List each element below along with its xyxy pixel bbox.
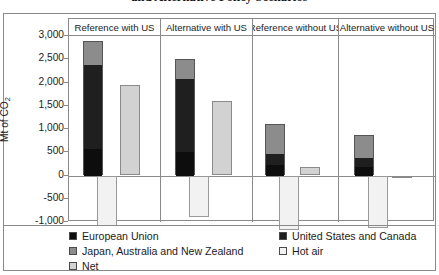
stack-segment <box>355 158 373 167</box>
chart-legend: European UnionJapan, Australia and New Z… <box>3 225 436 271</box>
legend-label: European Union <box>82 230 159 242</box>
stack-segment <box>176 79 194 152</box>
legend-column-left: European UnionJapan, Australia and New Z… <box>69 229 243 274</box>
stacked-bar <box>175 59 195 176</box>
y-axis-tick-mark <box>64 221 68 222</box>
stack-segment <box>84 42 102 65</box>
chart-page: and Alternative Policy Scenarios Mt of C… <box>0 0 439 275</box>
legend-label: Japan, Australia and New Zealand <box>82 245 243 257</box>
panel-title: Reference with US <box>69 19 160 36</box>
chart-panel: Alternative with US <box>161 19 253 222</box>
panel-plot-body <box>69 36 160 222</box>
chart-panel: Reference with US <box>69 19 161 222</box>
legend-item: Hot air <box>279 244 416 258</box>
stack-segment <box>84 65 102 149</box>
legend-item: European Union <box>69 229 243 243</box>
net-bar <box>120 85 140 176</box>
panel-plot-body <box>339 36 435 222</box>
panel-plot-body <box>161 36 252 222</box>
legend-swatch-japan-australia-new-zealand <box>69 247 77 255</box>
stack-segment <box>355 136 373 158</box>
y-axis: Mt of CO2 3,0002,5002,0001,5001,0005000-… <box>3 18 68 221</box>
stack-segment <box>176 152 194 177</box>
stacked-bar <box>83 41 103 175</box>
legend-item: Japan, Australia and New Zealand <box>69 244 243 258</box>
legend-swatch-european-union <box>69 232 77 240</box>
hot-air-bar <box>279 176 299 231</box>
legend-swatch-united-states-and-canada <box>279 232 287 240</box>
legend-label: Net <box>82 260 99 272</box>
legend-swatch-net <box>69 262 77 270</box>
hot-air-bar <box>97 176 117 226</box>
plot-area: Reference with USAlternative with USRefe… <box>68 18 434 221</box>
y-axis-tick-label: 3,000 <box>39 29 65 41</box>
panel-title: Reference without US <box>253 19 338 36</box>
legend-swatch-hot-air <box>279 247 287 255</box>
chart-panel: Alternative without US <box>339 19 435 222</box>
stack-segment <box>266 125 284 154</box>
y-axis-tick-label: 2,500 <box>39 52 65 64</box>
panel-title: Alternative with US <box>161 19 252 36</box>
y-axis-tick-label: -500 <box>44 192 64 204</box>
stacked-bar <box>265 124 285 175</box>
stack-segment <box>84 149 102 177</box>
chart-title: and Alternative Policy Scenarios <box>0 0 439 10</box>
legend-item: United States and Canada <box>279 229 416 243</box>
legend-column-right: United States and CanadaHot air <box>279 229 416 259</box>
y-axis-tick-label: 2,000 <box>39 76 65 88</box>
legend-label: Hot air <box>292 245 323 257</box>
hot-air-bar <box>189 176 209 218</box>
chart-panel: Reference without US <box>253 19 339 222</box>
legend-label: United States and Canada <box>292 230 416 242</box>
stacked-bar <box>354 135 374 176</box>
net-bar <box>392 176 412 179</box>
net-bar <box>300 167 320 175</box>
panel-title: Alternative without US <box>339 19 435 36</box>
stack-segment <box>176 60 194 79</box>
y-axis-tick-label: 1,000 <box>39 122 65 134</box>
y-axis-label: Mt of CO2 <box>0 74 12 164</box>
legend-item: Net <box>69 259 243 273</box>
hot-air-bar <box>368 176 388 228</box>
y-axis-tick-label: 1,500 <box>39 99 65 111</box>
stack-segment <box>266 154 284 165</box>
y-axis-tick-label: 500 <box>47 145 64 157</box>
panel-plot-body <box>253 36 338 222</box>
net-bar <box>212 101 232 176</box>
